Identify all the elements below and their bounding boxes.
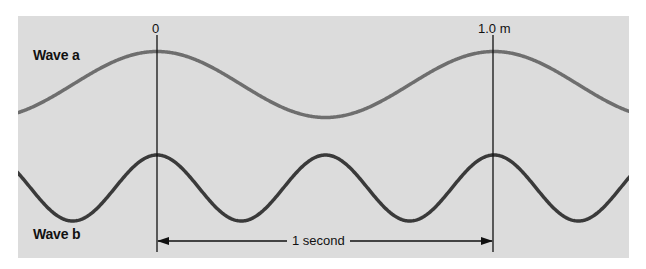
wave-comparison-figure: Wave a Wave b 0 1.0 m 1 second: [0, 0, 646, 269]
start-marker-label: 0: [152, 21, 159, 36]
wave-a-label: Wave a: [33, 47, 80, 63]
end-marker-label: 1.0 m: [478, 21, 511, 36]
time-arrow-label: 1 second: [287, 233, 350, 248]
wave-b-label: Wave b: [33, 226, 80, 242]
wave-b-curve: [14, 155, 634, 221]
wave-plot: [0, 0, 646, 269]
wave-a-curve: [14, 52, 634, 118]
